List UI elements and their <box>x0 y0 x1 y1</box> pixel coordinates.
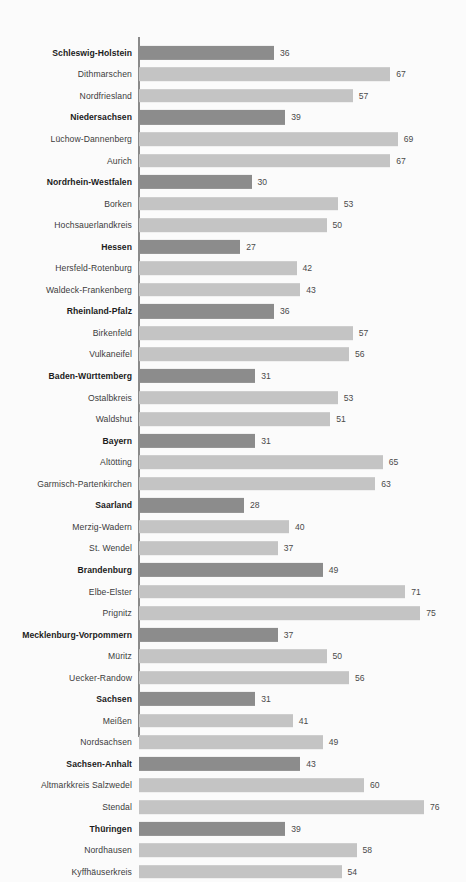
bar-category-label: Baden-Württemberg <box>49 371 132 381</box>
bar-category-label: Hersfeld-Rotenburg <box>55 263 132 273</box>
bar <box>139 779 364 793</box>
bar <box>139 304 274 318</box>
bar-value-label: 37 <box>284 543 294 553</box>
chart-row-district: Birkenfeld57 <box>0 322 466 344</box>
chart-row-state: Hessen27 <box>0 236 466 258</box>
bar-category-label: Nordrhein-Westfalen <box>47 177 132 187</box>
bar-value-label: 40 <box>295 522 305 532</box>
bar-category-label: Nordfriesland <box>80 91 132 101</box>
bar <box>139 736 323 750</box>
bar-value-label: 31 <box>261 694 271 704</box>
bar-value-label: 57 <box>359 328 369 338</box>
bar <box>139 671 349 685</box>
bar-value-label: 36 <box>280 306 290 316</box>
bar-category-label: Dithmarschen <box>78 69 132 79</box>
chart-row-district: Meißen41 <box>0 710 466 732</box>
bar <box>139 757 300 771</box>
bar-category-label: Garmisch-Partenkirchen <box>37 479 132 489</box>
bar <box>139 434 255 448</box>
bar-category-label: Aurich <box>107 156 132 166</box>
chart-row-district: Müritz50 <box>0 645 466 667</box>
chart-row-district: Vulkaneifel56 <box>0 344 466 366</box>
bar-value-label: 67 <box>396 69 406 79</box>
chart-row-state: Saarland28 <box>0 495 466 517</box>
bar <box>139 175 252 189</box>
bar-category-label: Birkenfeld <box>93 328 132 338</box>
chart-row-district: Lüchow-Dannenberg69 <box>0 128 466 150</box>
chart-row-state: Sachsen-Anhalt43 <box>0 753 466 775</box>
bar-category-label: Niedersachsen <box>70 112 132 122</box>
chart-row-district: Nordsachsen49 <box>0 732 466 754</box>
bar <box>139 692 255 706</box>
bar <box>139 348 349 362</box>
bar-category-label: Schleswig-Holstein <box>52 48 132 58</box>
chart-row-district: Ostalbkreis53 <box>0 387 466 409</box>
bar-category-label: Nordsachsen <box>80 737 132 747</box>
bar <box>139 498 244 512</box>
bar-category-label: Bayern <box>103 436 132 446</box>
bar-value-label: 53 <box>344 199 354 209</box>
bar-value-label: 30 <box>258 177 268 187</box>
chart-row-district: Hersfeld-Rotenburg42 <box>0 258 466 280</box>
bar-value-label: 75 <box>426 608 436 618</box>
bar-value-label: 56 <box>355 349 365 359</box>
bar-value-label: 43 <box>306 759 316 769</box>
chart-row-state: Thüringen39 <box>0 818 466 840</box>
bar-category-label: Thüringen <box>90 824 132 834</box>
chart-row-district: Garmisch-Partenkirchen63 <box>0 473 466 495</box>
bar-value-label: 49 <box>329 737 339 747</box>
bar-value-label: 53 <box>344 393 354 403</box>
bar-category-label: Prignitz <box>103 608 132 618</box>
bar <box>139 369 255 383</box>
bar-value-label: 65 <box>389 457 399 467</box>
bar-category-label: Merzig-Wadern <box>72 522 132 532</box>
bar-value-label: 31 <box>261 436 271 446</box>
bar-category-label: Altmarkkreis Salzwedel <box>41 780 132 790</box>
chart-row-state: Mecklenburg-Vorpommern37 <box>0 624 466 646</box>
chart-row-district: Altmarkkreis Salzwedel60 <box>0 775 466 797</box>
chart-row-district: Nordfriesland57 <box>0 85 466 107</box>
bar <box>139 218 327 232</box>
bar <box>139 821 285 835</box>
chart-row-district: Hochsauerlandkreis50 <box>0 214 466 236</box>
bar-value-label: 69 <box>404 134 414 144</box>
bar-category-label: St. Wendel <box>89 543 132 553</box>
chart-row-district: Waldeck-Frankenberg43 <box>0 279 466 301</box>
bar-value-label: 39 <box>291 824 301 834</box>
bar <box>139 391 338 405</box>
bar-category-label: Nordhausen <box>84 845 132 855</box>
bar-value-label: 57 <box>359 91 369 101</box>
bar-value-label: 50 <box>333 220 343 230</box>
bar-value-label: 71 <box>411 587 421 597</box>
bar-value-label: 60 <box>370 780 380 790</box>
bar <box>139 197 338 211</box>
bar-category-label: Waldshut <box>96 414 132 424</box>
bar <box>139 89 353 103</box>
chart-row-district: Merzig-Wadern40 <box>0 516 466 538</box>
bar-category-label: Vulkaneifel <box>89 349 132 359</box>
bar-category-label: Borken <box>104 199 132 209</box>
bar <box>139 283 300 297</box>
bar-value-label: 36 <box>280 48 290 58</box>
bar-category-label: Kyffhäuserkreis <box>71 867 132 877</box>
chart-row-state: Sachsen31 <box>0 689 466 711</box>
bar-value-label: 31 <box>261 371 271 381</box>
bar-category-label: Müritz <box>108 651 132 661</box>
bar-value-label: 58 <box>363 845 373 855</box>
bar-category-label: Hessen <box>101 242 132 252</box>
bar <box>139 606 420 620</box>
bar <box>139 843 357 857</box>
bar <box>139 110 285 124</box>
bar <box>139 132 398 146</box>
chart-row-district: St. Wendel37 <box>0 538 466 560</box>
chart-row-district: Nordhausen58 <box>0 839 466 861</box>
bar <box>139 800 424 814</box>
chart-row-state: Rheinland-Pfalz36 <box>0 301 466 323</box>
bar-value-label: 49 <box>329 565 339 575</box>
bar <box>139 46 274 60</box>
bar <box>139 520 289 534</box>
bar <box>139 628 278 642</box>
bar <box>139 240 240 254</box>
bar <box>139 261 297 275</box>
